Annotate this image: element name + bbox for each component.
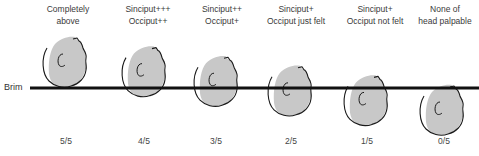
fetal-head <box>420 85 464 135</box>
stage-caption: Sinciput+ Occiput just felt <box>251 3 341 27</box>
fetal-head <box>194 56 238 106</box>
caption-line: Occiput just felt <box>251 15 341 27</box>
stage-caption: None of head palpable <box>400 3 479 27</box>
fifths-label: 0/5 <box>424 136 464 146</box>
brim-label: Brim <box>4 82 23 92</box>
caption-line: above <box>23 15 113 27</box>
caption-line: head palpable <box>400 15 479 27</box>
fifths-label: 4/5 <box>124 136 164 146</box>
fifths-label: 3/5 <box>196 136 236 146</box>
fetal-head <box>43 37 87 87</box>
head-descent-diagram: Brim Completely above Sinciput+++ Occipu… <box>0 0 479 156</box>
caption-line: Completely <box>23 3 113 15</box>
fifths-label: 5/5 <box>46 136 86 146</box>
fetal-head <box>268 66 312 116</box>
caption-line: None of <box>400 3 479 15</box>
fifths-label: 2/5 <box>271 136 311 146</box>
fifths-label: 1/5 <box>347 136 387 146</box>
stage-caption: Completely above <box>23 3 113 27</box>
fetal-head <box>344 75 388 125</box>
caption-line: Sinciput+ <box>251 3 341 15</box>
